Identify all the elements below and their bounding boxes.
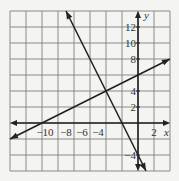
line-2-arrow-start-icon — [10, 133, 18, 139]
y-tick-label: 12 — [125, 21, 136, 33]
y-tick-label: 2 — [131, 101, 137, 113]
y-tick-label: −4 — [124, 149, 136, 161]
y-tick-label: 8 — [131, 53, 137, 65]
x-tick-label: −10 — [36, 126, 54, 138]
y-tick-label: 4 — [131, 85, 137, 97]
line-1-arrow-end-icon — [140, 163, 146, 171]
x-tick-label: −8 — [60, 126, 72, 138]
y-tick-label: 10 — [125, 37, 137, 49]
x-tick-label: 2 — [151, 126, 157, 138]
x-axis-arrow-left-icon — [10, 120, 17, 126]
line-1-arrow-start-icon — [66, 11, 72, 19]
coordinate-plane: y x −10 −8 −6 −4 2 12 10 8 4 2 −4 — [0, 0, 179, 181]
x-tick-label: −6 — [76, 126, 88, 138]
y-axis-label: y — [143, 9, 149, 21]
x-tick-label: −4 — [92, 126, 104, 138]
y-axis-arrow-up-icon — [135, 11, 141, 18]
grid — [10, 11, 170, 171]
line-2-arrow-end-icon — [162, 59, 170, 65]
x-axis-label: x — [163, 126, 169, 138]
